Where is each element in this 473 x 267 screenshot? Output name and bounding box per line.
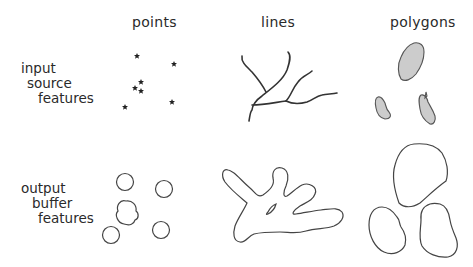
star-icon	[134, 53, 140, 59]
star-icon	[171, 61, 177, 67]
output-point-buffers	[103, 174, 173, 244]
diagram-graphics	[0, 0, 473, 267]
output-polygon-buffers	[369, 144, 457, 257]
input-lines	[242, 52, 337, 121]
input-polygons	[375, 43, 435, 124]
buffer-diagram: points lines polygons input source featu…	[0, 0, 473, 267]
input-points	[122, 53, 177, 110]
star-icon	[138, 79, 144, 85]
star-icon	[132, 85, 138, 91]
star-icon	[138, 88, 144, 94]
star-icon	[169, 99, 175, 105]
star-icon	[122, 104, 128, 110]
output-line-buffer	[223, 168, 343, 242]
